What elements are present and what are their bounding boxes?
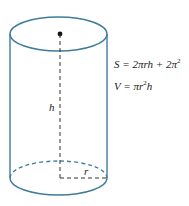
cylinder-diagram xyxy=(0,0,189,206)
surface-area-text: S = 2πrh + 2π xyxy=(114,58,177,70)
bottom-ellipse-front xyxy=(10,178,107,195)
surface-area-exponent: 2 xyxy=(177,57,181,65)
radius-label: r xyxy=(84,165,88,177)
bottom-ellipse-back xyxy=(10,161,107,178)
height-label: h xyxy=(49,101,55,113)
surface-area-formula: S = 2πrh + 2π2 xyxy=(114,57,180,70)
volume-formula: V = πr2h xyxy=(114,79,152,92)
volume-text: V = πr xyxy=(114,80,143,92)
volume-text-end: h xyxy=(147,80,153,92)
